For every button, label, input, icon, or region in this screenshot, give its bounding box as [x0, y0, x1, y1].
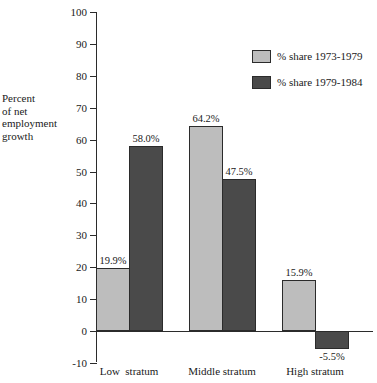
bar [222, 179, 256, 331]
y-axis-tick [90, 76, 97, 77]
x-axis-category-label: Low stratum [80, 365, 178, 377]
bar-chart: Percent of net employment growth 1009080… [0, 0, 377, 383]
y-axis-tick-label: 40 [47, 198, 87, 209]
y-axis-tick [90, 203, 97, 204]
y-axis-tick-label: 70 [47, 103, 87, 114]
legend-label: % share 1979-1984 [277, 76, 363, 89]
bar [189, 126, 223, 331]
y-axis-tick [90, 235, 97, 236]
y-axis-tick [90, 12, 97, 13]
bar-value-label: 64.2% [181, 113, 231, 124]
x-axis-category-label: High stratum [266, 365, 364, 377]
x-axis-category-label: Middle stratum [173, 365, 271, 377]
bar-value-label: 15.9% [274, 267, 324, 278]
y-axis-tick [90, 172, 97, 173]
bar [96, 268, 130, 331]
bar [129, 146, 163, 331]
y-axis-tick [90, 108, 97, 109]
y-axis-tick-label: 80 [47, 71, 87, 82]
y-axis-tick-label: 90 [47, 39, 87, 50]
y-axis-tick-label: 20 [47, 262, 87, 273]
bar-value-label: -5.5% [307, 351, 357, 362]
y-axis-tick-label: 60 [47, 135, 87, 146]
y-axis-tick [90, 331, 97, 332]
y-axis-tick-label: 30 [47, 230, 87, 241]
bar-value-label: 47.5% [214, 166, 264, 177]
bar-value-label: 58.0% [121, 133, 171, 144]
legend-swatch-icon [252, 50, 271, 63]
legend-swatch-icon [252, 76, 271, 89]
y-axis-tick-label: 0 [47, 326, 87, 337]
y-axis-tick [90, 44, 97, 45]
bar [282, 280, 316, 331]
legend-label: % share 1973-1979 [277, 50, 363, 63]
y-axis-tick-label: 10 [47, 294, 87, 305]
y-axis-tick [90, 140, 97, 141]
y-axis-tick-label: 100 [47, 7, 87, 18]
y-axis-tick-label: 50 [47, 167, 87, 178]
y-axis-tick [90, 363, 97, 364]
bar [315, 331, 349, 349]
